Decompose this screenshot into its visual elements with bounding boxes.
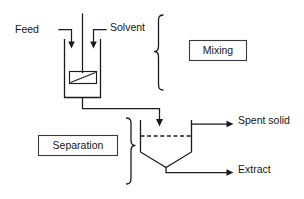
mixing-brace [155,15,164,90]
feed-arrowhead-icon [68,42,75,49]
flow-diagram-canvas: Feed Solvent Mixing Spent solid Extract … [0,0,304,199]
spent-solid-arrowhead-icon [227,121,234,128]
solvent-stream-line [94,30,107,44]
impeller-diagonal [71,73,96,83]
settler-inlet-arrowhead-icon [156,119,163,127]
extract-label: Extract [238,163,271,175]
feed-stream-line [59,30,72,44]
solvent-label: Solvent [110,21,145,33]
settler-vessel [141,120,192,168]
extract-stream-line [166,168,227,173]
mixer-to-settler-line [83,98,160,121]
process-flow-diagram: Feed Solvent Mixing Spent solid Extract … [0,0,304,199]
solvent-arrowhead-icon [90,42,97,49]
extract-arrowhead-icon [227,169,234,176]
spent-solid-label: Spent solid [238,114,290,126]
feed-label: Feed [15,23,39,35]
mixing-label: Mixing [203,44,234,56]
separation-brace [127,118,136,184]
separation-label: Separation [53,139,104,151]
